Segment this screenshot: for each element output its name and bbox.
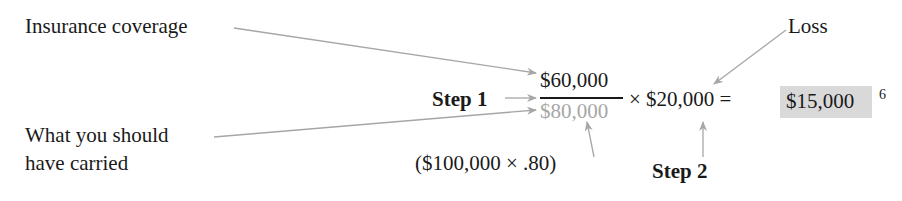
numerator: $60,000 — [540, 70, 608, 91]
multiply-term: × $20,000 = — [629, 89, 731, 110]
have-carried-label: have carried — [25, 153, 128, 174]
insurance-coverage-label: Insurance coverage — [25, 16, 188, 37]
step1-label: Step 1 — [432, 89, 487, 110]
footnote-marker: 6 — [879, 88, 886, 102]
loss-label: Loss — [788, 16, 828, 37]
loss-arrow — [714, 30, 786, 84]
what-you-should-arrow — [214, 110, 536, 137]
result-value: $15,000 — [786, 91, 854, 112]
what-you-should-label: What you should — [25, 125, 168, 146]
denominator-calc-arrow — [587, 122, 594, 157]
step2-label: Step 2 — [652, 161, 707, 182]
denominator: $80,000 — [540, 101, 608, 122]
denominator-calc: ($100,000 × .80) — [415, 153, 556, 174]
insurance-coverage-arrow — [234, 28, 536, 73]
